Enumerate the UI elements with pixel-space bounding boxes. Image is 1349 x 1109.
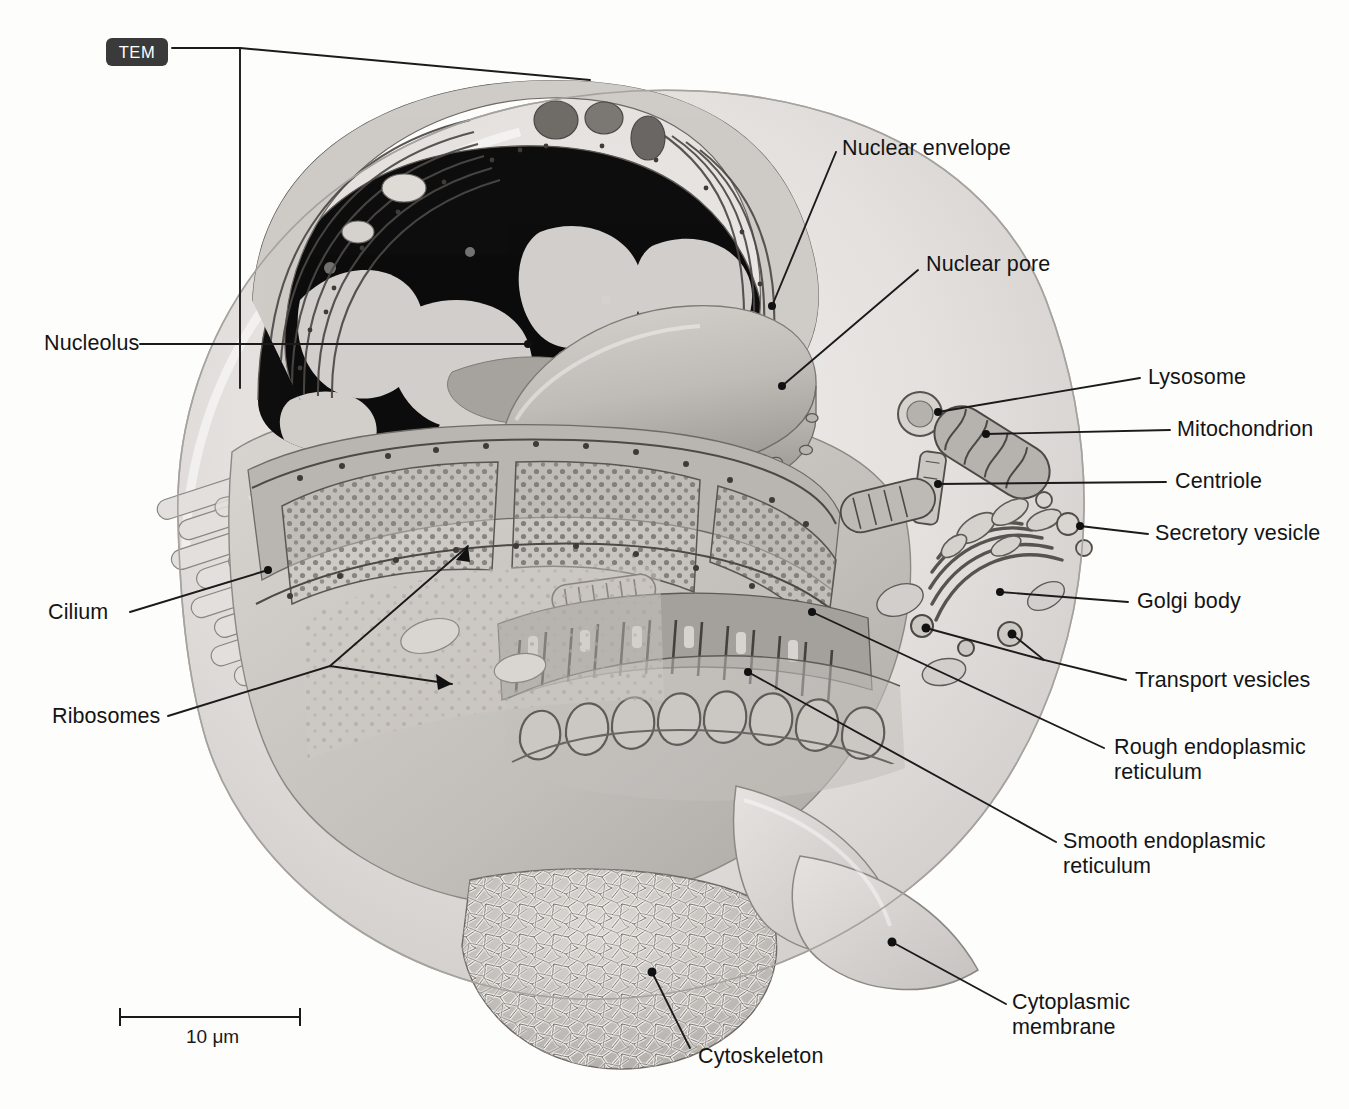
label-cytoskeleton: Cytoskeleton [698,1044,824,1069]
label-golgi-body: Golgi body [1137,589,1241,614]
label-cilium: Cilium [48,600,108,625]
label-nucleolus: Nucleolus [44,331,139,356]
label-transport-vesicles: Transport vesicles [1135,668,1310,693]
scale-bar-label: 10 μm [186,1026,239,1048]
label-secretory-vesicle: Secretory vesicle [1155,521,1320,546]
label-mitochondrion: Mitochondrion [1177,417,1313,442]
label-nuclear-envelope: Nuclear envelope [842,136,1011,161]
label-ribosomes: Ribosomes [52,704,160,729]
label-nuclear-pore: Nuclear pore [926,252,1050,277]
label-rough-er: Rough endoplasmic reticulum [1114,735,1306,785]
scale-bar [0,0,1349,1109]
figure-canvas: 10 μm TEM Nuclear envelope Nuclear pore … [0,0,1349,1109]
label-cytoplasmic-membrane: Cytoplasmic membrane [1012,990,1130,1040]
label-lysosome: Lysosome [1148,365,1246,390]
tem-badge: TEM [106,38,168,66]
label-centriole: Centriole [1175,469,1262,494]
label-smooth-er: Smooth endoplasmic reticulum [1063,829,1266,879]
